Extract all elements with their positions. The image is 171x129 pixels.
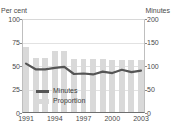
left-tick-mark xyxy=(20,19,22,20)
x-tick-label: 1994 xyxy=(42,115,68,123)
left-tick-label: 25 xyxy=(0,86,20,93)
legend-item-minutes: Minutes xyxy=(36,86,85,96)
right-tick-mark xyxy=(145,113,147,114)
x-tick-label: 2000 xyxy=(99,115,125,123)
left-tick-mark xyxy=(20,43,22,44)
left-tick-label: 100 xyxy=(0,16,20,23)
chart-container: Per cent Minutes 0255075100 050100150200… xyxy=(0,0,171,129)
left-axis-caption: Per cent xyxy=(1,7,27,15)
right-tick-mark xyxy=(145,19,147,20)
legend-bar-swatch-icon xyxy=(36,99,49,104)
right-axis-caption: Minutes xyxy=(145,7,170,15)
legend-item-proportion: Proportion xyxy=(36,96,85,106)
legend-label-minutes: Minutes xyxy=(53,87,78,95)
title-remnant xyxy=(0,0,171,5)
legend-line-swatch-icon xyxy=(36,90,49,93)
right-tick-mark xyxy=(145,66,147,67)
chart-legend: Minutes Proportion xyxy=(36,86,85,106)
right-tick-label: 100 xyxy=(147,63,171,70)
left-tick-mark xyxy=(20,90,22,91)
left-tick-mark xyxy=(20,113,22,114)
right-tick-label: 150 xyxy=(147,39,171,46)
x-tick-label: 1991 xyxy=(13,115,39,123)
legend-label-proportion: Proportion xyxy=(53,97,85,105)
left-tick-label: 75 xyxy=(0,39,20,46)
x-tick-label: 1997 xyxy=(71,115,97,123)
x-tick-label: 2003 xyxy=(128,115,154,123)
left-tick-mark xyxy=(20,66,22,67)
left-tick-label: 50 xyxy=(0,63,20,70)
right-tick-label: 200 xyxy=(147,16,171,23)
right-tick-mark xyxy=(145,43,147,44)
right-tick-mark xyxy=(145,90,147,91)
right-tick-label: 50 xyxy=(147,86,171,93)
